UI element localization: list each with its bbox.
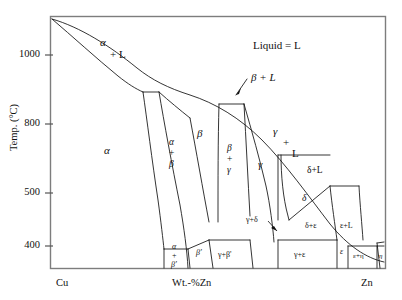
y-tick-500: 500: [6, 186, 40, 197]
y-tick-400: 400: [6, 239, 40, 250]
beta-plus-gamma-label-plus: +: [227, 155, 232, 164]
delta-plus-L-label: δ+L: [307, 166, 323, 176]
alpha-plus-beta-label-alpha: α: [169, 138, 174, 147]
alpha-plus-betaprime-label-plus: +: [172, 252, 177, 260]
eta-label: η: [379, 253, 382, 260]
beta-plus-L-label: β + L: [251, 72, 276, 83]
delta-label: δ: [302, 194, 306, 204]
x-axis-title: Wt.-%Zn: [172, 277, 211, 288]
alpha-plus-L-label-plusL: + L: [110, 49, 126, 60]
epsilon-plus-L-label: ε+L: [340, 222, 353, 230]
beta-label: β: [197, 128, 202, 139]
epsilon-label: ε: [340, 248, 343, 256]
y-tick-1000: 1000: [6, 48, 40, 59]
gamma-plus-L-label-gamma: γ: [273, 126, 277, 137]
delta-plus-epsilon-label: δ+ε: [305, 222, 317, 230]
phase-diagram-figure: 1000 800 500 400 Temp. (°C) Wt.-%Zn Cu Z…: [0, 0, 402, 300]
gamma-plus-epsilon-label: γ+ε: [294, 251, 305, 259]
alpha-plus-betaprime-label-betaprime: β': [171, 261, 177, 269]
beta-plus-gamma-label-gamma: γ: [227, 166, 231, 175]
x-axis-left-endmember: Cu: [56, 277, 68, 288]
y-axis-title: Temp. (°C): [8, 93, 19, 163]
epsilon-plus-eta-label: ε+η: [353, 253, 364, 260]
gamma-plus-betaprime-label: γ+β': [218, 251, 232, 259]
alpha-plus-betaprime-label-alpha: α: [172, 243, 176, 251]
gamma-plus-L-label-plus: +: [283, 137, 289, 148]
alpha-plus-beta-label-beta: β: [169, 160, 174, 169]
beta-plus-gamma-label-beta: β: [227, 144, 232, 153]
gamma-plus-delta-label: γ+δ: [246, 216, 258, 224]
alpha-label: α: [104, 145, 110, 156]
gamma-label: γ: [258, 159, 262, 170]
x-axis-right-endmember: Zn: [361, 277, 373, 288]
gamma-plus-L-label-L: L: [292, 148, 299, 159]
liquid-legend-label: Liquid = L: [253, 40, 301, 51]
alpha-plus-L-label-alpha: α: [100, 37, 106, 48]
alpha-plus-beta-label-plus: +: [169, 149, 174, 158]
betaprime-label: β': [196, 249, 202, 257]
